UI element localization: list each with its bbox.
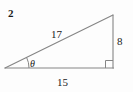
adjacent-leg-length-label: 15: [57, 77, 68, 88]
theta-angle-arc: [27, 57, 29, 68]
theta-angle-label: θ: [30, 59, 35, 69]
right-angle-marker: [106, 61, 114, 69]
figure-number-label: 2: [8, 8, 14, 19]
hypotenuse-length-label: 17: [51, 29, 62, 40]
figure-container: 2 17 8 15 θ: [0, 0, 133, 92]
hypotenuse-line: [5, 15, 113, 68]
opposite-leg-length-label: 8: [117, 36, 123, 47]
